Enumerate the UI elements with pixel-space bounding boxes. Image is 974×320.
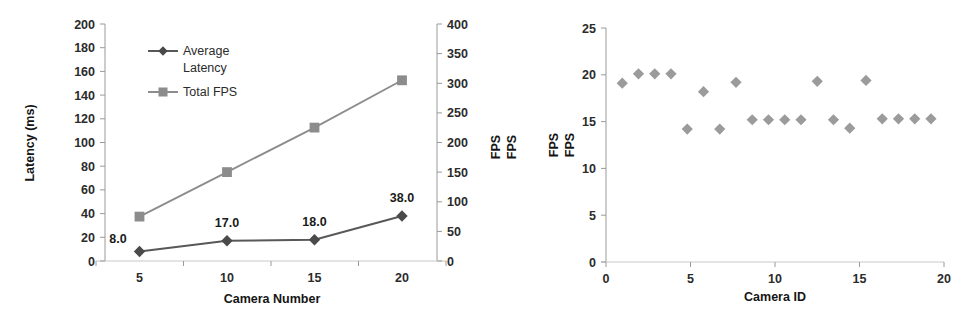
scatter-point [747,114,758,125]
y2tick-0: 0 [447,255,454,269]
data-label-8: 8.0 [109,232,126,246]
ytick-60: 60 [81,183,95,197]
figure-container: 0 20 40 60 80 100 120 140 160 180 200 [0,0,974,320]
legend-label-average-latency-line1: Average [183,44,229,58]
right-ytick-0: 0 [589,256,596,270]
right-xtick-5: 5 [687,272,694,286]
right-ytick-15: 15 [582,115,596,129]
primary-y-tick-labels: 0 20 40 60 80 100 120 140 160 180 200 [74,18,95,269]
right-ytick-25: 25 [582,22,596,36]
y2tick-250: 250 [447,106,468,120]
total-fps-markers [135,75,407,221]
right-ytick-20: 20 [582,68,596,82]
total-fps-line [140,80,403,216]
xtick-5: 5 [136,271,143,285]
xtick-20: 20 [395,271,409,285]
scatter-points-group [617,68,937,134]
y2tick-350: 350 [447,47,468,61]
scatter-point [893,113,904,124]
right-chart-svg: 0 5 10 15 20 25 0 5 10 15 20 Cam [540,0,974,320]
left-x-ticks [96,261,446,266]
right-y-tick-labels: 0 5 10 15 20 25 [582,22,596,270]
ytick-20: 20 [81,231,95,245]
average-latency-line [140,216,403,252]
scatter-point [860,75,871,86]
legend-marker-total-fps [159,88,168,97]
scatter-point [795,114,806,125]
right-ytick-5: 5 [589,209,596,223]
ytick-0: 0 [88,255,95,269]
scatter-point [633,68,644,79]
scatter-point [877,113,888,124]
left-y-axis-title: Latency (ms) [23,104,37,181]
xtick-15: 15 [308,271,322,285]
y2tick-200: 200 [447,136,468,150]
legend-label-average-latency-line2: Latency [183,61,228,75]
ytick-140: 140 [74,89,95,103]
left-x-axis-title: Camera Number [224,292,321,306]
right-y-ticks [601,28,606,262]
scatter-point [844,123,855,134]
scatter-point [763,114,774,125]
primary-y-ticks [100,24,105,261]
legend-marker-average-latency [158,46,167,55]
ytick-200: 200 [74,18,95,32]
average-latency-markers [134,210,408,257]
scatter-point [812,76,823,87]
y2tick-50: 50 [447,225,461,239]
right-xtick-20: 20 [937,272,951,286]
scatter-point [714,123,725,134]
right-y-axis-title: FPS [547,133,561,157]
right-y-axis-title-duplicate: FPS [563,133,577,157]
right-xtick-15: 15 [853,272,867,286]
right-x-tick-labels: 0 5 10 15 20 [603,272,951,286]
scatter-point [828,114,839,125]
latency-fps-line-chart: 0 20 40 60 80 100 120 140 160 180 200 [0,0,540,320]
right-xtick-10: 10 [768,272,782,286]
scatter-point [779,114,790,125]
left-chart-legend: Average Latency Total FPS [148,44,237,99]
left-x-tick-labels: 5 10 15 20 [136,271,409,285]
left-y2-axis-title: FPS [489,135,503,159]
y2tick-400: 400 [447,18,468,32]
ytick-40: 40 [81,207,95,221]
scatter-point [665,68,676,79]
right-ytick-10: 10 [582,162,596,176]
xtick-10: 10 [220,271,234,285]
legend-label-total-fps: Total FPS [183,85,237,99]
right-x-axis-title: Camera ID [744,290,806,304]
ytick-120: 120 [74,112,95,126]
right-x-ticks [606,262,944,267]
scatter-point [617,78,628,89]
scatter-point [698,86,709,97]
right-xtick-0: 0 [603,272,610,286]
secondary-y-tick-labels: 0 50 100 150 200 250 300 350 400 [447,18,468,269]
left-chart-svg: 0 20 40 60 80 100 120 140 160 180 200 [0,0,540,320]
data-label-17: 17.0 [215,216,239,230]
ytick-180: 180 [74,41,95,55]
data-label-18: 18.0 [302,215,326,229]
ytick-160: 160 [74,65,95,79]
y2tick-100: 100 [447,195,468,209]
left-y2-axis-title-duplicate: FPS [505,135,519,159]
scatter-point [649,68,660,79]
average-latency-data-labels: 8.0 17.0 18.0 38.0 [109,191,414,246]
scatter-point [730,77,741,88]
scatter-point [909,113,920,124]
ytick-80: 80 [81,160,95,174]
scatter-point [925,113,936,124]
ytick-100: 100 [74,136,95,150]
secondary-y-ticks [437,24,442,261]
y2tick-300: 300 [447,77,468,91]
fps-per-camera-scatter-chart: 0 5 10 15 20 25 0 5 10 15 20 Cam [540,0,974,320]
scatter-point [682,123,693,134]
data-label-38: 38.0 [390,191,414,205]
y2tick-150: 150 [447,166,468,180]
